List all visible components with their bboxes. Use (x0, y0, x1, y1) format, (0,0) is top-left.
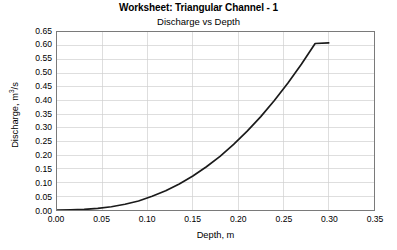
y-axis-tick-label: 0.35 (0, 110, 52, 119)
x-axis-tick-label: 0.35 (355, 214, 395, 224)
chart-subtitle: Discharge vs Depth (0, 16, 397, 27)
y-axis-tick-label: 0.60 (0, 40, 52, 49)
x-axis-tick-label: 0.10 (127, 214, 167, 224)
chart-figure: Worksheet: Triangular Channel - 1 Discha… (0, 0, 397, 250)
x-axis-tick-label: 0.00 (36, 214, 76, 224)
y-axis-tick-label: 0.25 (0, 137, 52, 146)
x-axis-tick-label: 0.05 (82, 214, 122, 224)
y-axis-tick-label: 0.05 (0, 193, 52, 202)
y-axis-title-unit: /s (10, 82, 20, 89)
y-axis-tick-labels: 0.000.050.100.150.200.250.300.350.400.45… (0, 31, 52, 211)
x-axis-tick-labels: 0.000.050.100.150.200.250.300.35 (56, 214, 375, 226)
discharge-depth-line (57, 43, 329, 210)
y-axis-tick-label: 0.50 (0, 68, 52, 77)
y-axis-title-exponent: 3 (8, 89, 15, 93)
x-axis-title: Depth, m (56, 230, 375, 240)
y-axis-tick-label: 0.10 (0, 179, 52, 188)
y-axis-tick-label: 0.15 (0, 165, 52, 174)
x-axis-tick-label: 0.20 (218, 214, 258, 224)
y-axis-tick-label: 0.40 (0, 96, 52, 105)
x-axis-tick-label: 0.15 (173, 214, 213, 224)
y-axis-tick-label: 0.20 (0, 151, 52, 160)
y-axis-title: Discharge, m3/s (10, 45, 20, 185)
x-axis-tick-label: 0.30 (309, 214, 349, 224)
chart-title: Worksheet: Triangular Channel - 1 (0, 2, 397, 13)
y-axis-tick-label: 0.30 (0, 123, 52, 132)
y-axis-tick-label: 0.55 (0, 54, 52, 63)
y-axis-title-text: Discharge, m (10, 93, 20, 148)
data-series-curve (57, 32, 374, 210)
y-axis-tick-label: 0.65 (0, 27, 52, 36)
x-axis-tick-label: 0.25 (264, 214, 304, 224)
plot-area (56, 31, 375, 211)
